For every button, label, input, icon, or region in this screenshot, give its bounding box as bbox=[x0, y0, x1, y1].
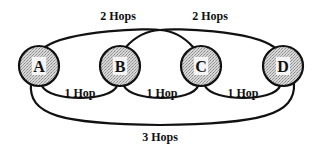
node-a: A bbox=[19, 46, 59, 86]
edge-label-b-c: 1 Hop bbox=[146, 86, 177, 100]
diagram-svg: A B C D 1 Hop 1 Hop 1 Hop 2 Hops 2 Hops … bbox=[0, 0, 319, 149]
node-d-label: D bbox=[277, 58, 289, 75]
node-c-label: C bbox=[195, 58, 207, 75]
node-d: D bbox=[263, 46, 303, 86]
hop-distance-diagram: A B C D 1 Hop 1 Hop 1 Hop 2 Hops 2 Hops … bbox=[0, 0, 319, 149]
edge-label-a-d: 3 Hops bbox=[142, 130, 178, 144]
edge-b-d-2-hops bbox=[126, 29, 274, 47]
edge-a-c-2-hops bbox=[45, 29, 193, 47]
node-b: B bbox=[100, 46, 140, 86]
node-b-label: B bbox=[115, 58, 126, 75]
edge-label-a-c: 2 Hops bbox=[100, 9, 136, 23]
node-a-label: A bbox=[33, 58, 45, 75]
edge-label-b-d: 2 Hops bbox=[192, 9, 228, 23]
edge-label-a-b: 1 Hop bbox=[64, 86, 95, 100]
edge-label-c-d: 1 Hop bbox=[227, 86, 258, 100]
node-c: C bbox=[181, 46, 221, 86]
